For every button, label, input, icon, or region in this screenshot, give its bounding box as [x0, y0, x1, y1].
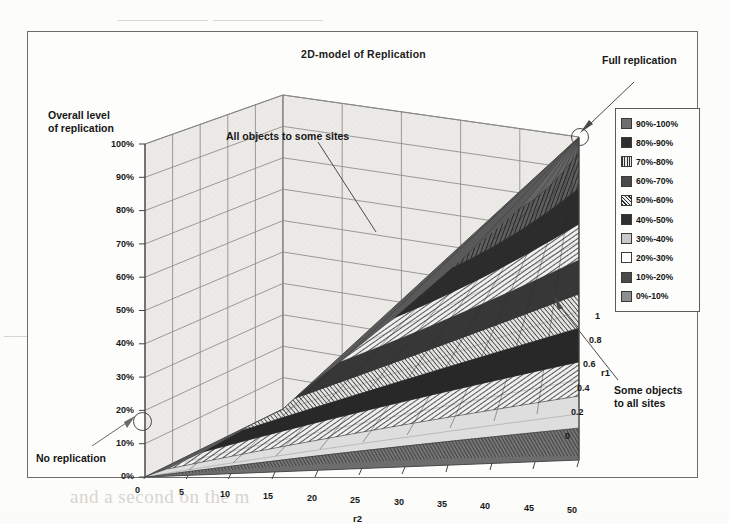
legend-swatch — [621, 176, 632, 187]
legend-item[interactable]: 50%-60% — [621, 191, 695, 210]
legend-label: 30%-40% — [636, 234, 673, 244]
legend-item[interactable]: 10%-20% — [621, 268, 695, 287]
legend-item[interactable]: 90%-100% — [621, 114, 695, 133]
x-tick: 40 — [480, 501, 490, 511]
legend-swatch — [621, 195, 632, 206]
legend-item[interactable]: 20%-30% — [621, 248, 695, 267]
x-tick: 5 — [179, 487, 184, 497]
x-tick: 50 — [567, 505, 577, 515]
z-tick: 70% — [90, 239, 134, 249]
legend-label: 80%-90% — [636, 138, 673, 148]
z-tick: 30% — [90, 372, 134, 382]
z-tick: 80% — [90, 205, 134, 215]
legend-swatch — [621, 291, 632, 302]
legend-item[interactable]: 40%-50% — [621, 210, 695, 229]
legend-label: 20%-30% — [636, 253, 673, 263]
z-axis-title: Overall level of replication — [48, 109, 114, 135]
legend-label: 10%-20% — [636, 272, 673, 282]
z-tick: 60% — [90, 272, 134, 282]
y-tick: 1 — [595, 311, 600, 321]
legend-item[interactable]: 30%-40% — [621, 229, 695, 248]
z-axis-title-line1: Overall level — [48, 109, 110, 121]
legend-label: 60%-70% — [636, 176, 673, 186]
z-tick: 20% — [90, 405, 134, 415]
legend-swatch — [621, 214, 632, 225]
y-tick: 0.8 — [589, 335, 602, 345]
callout-some-objects-line2: to all sites — [614, 397, 665, 409]
x-axis-title: r2 — [353, 513, 362, 524]
legend-item[interactable]: 70%-80% — [621, 152, 695, 171]
z-tick: 100% — [90, 139, 134, 149]
x-tick: 20 — [307, 493, 317, 503]
callout-some-objects-all-sites: Some objects to all sites — [614, 384, 682, 410]
z-tick: 50% — [90, 305, 134, 315]
z-axis-title-line2: of replication — [48, 122, 114, 134]
legend-item[interactable]: 0%-10% — [621, 287, 695, 306]
callout-some-objects-line1: Some objects — [614, 384, 682, 396]
z-tick: 90% — [90, 172, 134, 182]
y-tick: 0.2 — [571, 407, 584, 417]
legend-swatch — [621, 118, 632, 129]
x-tick: 10 — [220, 489, 230, 499]
x-tick: 30 — [394, 497, 404, 507]
marker-no-replication — [133, 412, 152, 431]
y-tick: 0.4 — [577, 383, 590, 393]
legend: 90%-100% 80%-90% 70%-80% 60%-70% 50%-60%… — [615, 108, 700, 312]
legend-label: 90%-100% — [636, 119, 678, 129]
legend-label: 70%-80% — [636, 157, 673, 167]
callout-all-objects-some-sites: All objects to some sites — [226, 130, 349, 143]
x-tick: 35 — [437, 499, 447, 509]
legend-swatch — [621, 156, 632, 167]
x-tick: 15 — [263, 491, 273, 501]
x-tick: 0 — [135, 485, 140, 495]
legend-swatch — [621, 233, 632, 244]
legend-swatch — [621, 137, 632, 148]
y-tick: 0 — [565, 431, 570, 441]
x-tick: 45 — [524, 503, 534, 513]
legend-item[interactable]: 60%-70% — [621, 172, 695, 191]
scan-bleed-text: _________ ___________ — [118, 2, 323, 24]
chart-frame: 2D-model of Replication — [27, 31, 698, 478]
legend-swatch — [621, 252, 632, 263]
legend-label: 0%-10% — [636, 291, 668, 301]
z-tick: 0% — [90, 471, 134, 481]
z-tick: 10% — [90, 438, 134, 448]
legend-label: 40%-50% — [636, 215, 673, 225]
legend-item[interactable]: 80%-90% — [621, 133, 695, 152]
legend-label: 50%-60% — [636, 195, 673, 205]
marker-full-replication — [571, 128, 589, 146]
callout-full-replication: Full replication — [602, 54, 677, 67]
y-axis-title: r1 — [601, 367, 610, 378]
y-tick: 0.6 — [583, 359, 596, 369]
x-tick: 25 — [350, 495, 360, 505]
z-tick: 40% — [90, 338, 134, 348]
callout-no-replication: No replication — [36, 452, 106, 465]
legend-swatch — [621, 272, 632, 283]
